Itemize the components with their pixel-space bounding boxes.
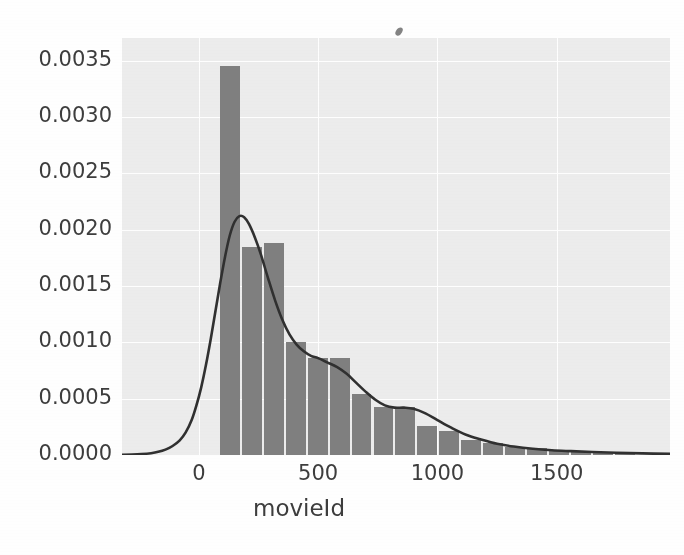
kde-curve bbox=[122, 38, 670, 455]
y-axis-tick-label: 0.0030 bbox=[0, 103, 112, 127]
x-axis-tick-label: 1500 bbox=[530, 461, 583, 485]
x-axis-tick-label: 1000 bbox=[411, 461, 464, 485]
plot-area bbox=[122, 38, 670, 455]
scan-artifact-smudge bbox=[394, 26, 404, 37]
x-axis-label: movieId bbox=[0, 495, 684, 521]
y-axis-tick-label: 0.0005 bbox=[0, 385, 112, 409]
kde-path bbox=[122, 216, 670, 455]
y-axis-tick-label: 0.0035 bbox=[0, 47, 112, 71]
x-axis-tick-label: 0 bbox=[192, 461, 205, 485]
x-axis-label-text: movieId bbox=[253, 495, 345, 521]
y-axis-tick-label: 0.0025 bbox=[0, 159, 112, 183]
y-axis-tick-label: 0.0020 bbox=[0, 216, 112, 240]
y-axis-tick-label: 0.0015 bbox=[0, 272, 112, 296]
y-axis-tick-label: 0.0000 bbox=[0, 441, 112, 465]
x-axis-tick-label: 500 bbox=[298, 461, 338, 485]
y-axis-tick-label: 0.0010 bbox=[0, 328, 112, 352]
histogram-figure: 0.00000.00050.00100.00150.00200.00250.00… bbox=[0, 0, 684, 555]
